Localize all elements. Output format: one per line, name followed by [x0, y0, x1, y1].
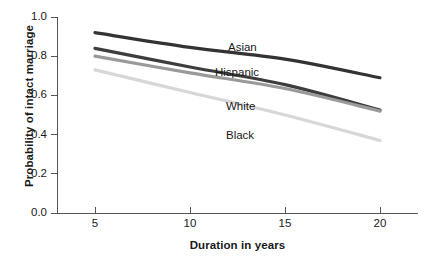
- x-tick-label: 5: [75, 218, 115, 230]
- x-tick-label: 10: [170, 218, 210, 230]
- chart-container: 0.00.20.40.60.81.0 5101520 Probability o…: [0, 0, 436, 268]
- x-tick: [285, 207, 286, 213]
- series-label-asian: Asian: [228, 42, 257, 54]
- x-tick: [95, 207, 96, 213]
- x-tick-label: 15: [265, 218, 305, 230]
- y-tick: [51, 173, 57, 174]
- y-axis-line: [57, 17, 58, 214]
- y-tick: [51, 17, 57, 18]
- x-axis-line: [57, 213, 418, 214]
- x-tick-label: 20: [360, 218, 400, 230]
- y-axis-title: Probability of intact marriage: [23, 16, 35, 196]
- y-tick: [51, 95, 57, 96]
- x-tick: [380, 207, 381, 213]
- x-axis-title: Duration in years: [57, 239, 418, 251]
- series-label-black: Black: [226, 130, 254, 142]
- y-tick-label: 0.0: [31, 207, 47, 219]
- x-tick: [190, 207, 191, 213]
- series-label-white: White: [226, 101, 255, 113]
- series-label-hispanic: Hispanic: [215, 67, 259, 79]
- y-tick: [51, 56, 57, 57]
- y-tick: [51, 134, 57, 135]
- y-tick: [51, 213, 57, 214]
